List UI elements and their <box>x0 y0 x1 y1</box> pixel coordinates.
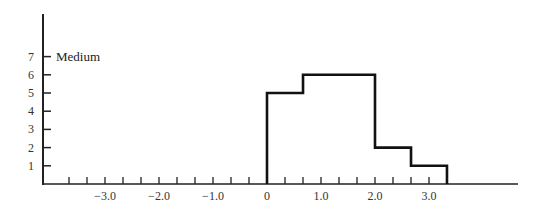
y-tick-label: 1 <box>28 159 34 173</box>
histogram-chart: 1234567Medium−3.0−2.0−1.001.02.03.0 <box>0 0 542 211</box>
y-tick-label: 6 <box>28 68 34 82</box>
x-tick-label: 2.0 <box>368 189 383 203</box>
y-tick-label: 3 <box>28 122 34 136</box>
x-tick-label: 1.0 <box>314 189 329 203</box>
y-tick-label: 4 <box>28 104 34 118</box>
x-tick-label: −1.0 <box>202 189 224 203</box>
x-tick-label: −3.0 <box>94 189 116 203</box>
y-tick-label: 2 <box>28 141 34 155</box>
x-tick-label: 3.0 <box>422 189 437 203</box>
series-annotation: Medium <box>56 49 100 64</box>
y-tick-label: 7 <box>28 50 34 64</box>
y-tick-label: 5 <box>28 86 34 100</box>
x-tick-label: 0 <box>264 189 270 203</box>
histogram-outline <box>267 75 447 184</box>
x-tick-label: −2.0 <box>148 189 170 203</box>
